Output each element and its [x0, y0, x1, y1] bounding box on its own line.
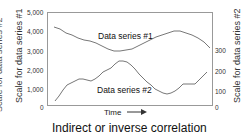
chart-canvas	[0, 0, 248, 139]
series-1-label: Data series #1	[98, 31, 153, 41]
x-axis-label: Time	[104, 108, 147, 117]
x-axis-label-text: Time	[104, 108, 121, 117]
arrow-right-icon	[127, 108, 147, 117]
series-2-label: Data series #2	[97, 85, 152, 95]
chart-caption: Indirect or inverse correlation	[52, 121, 207, 135]
series-2-line	[55, 61, 207, 101]
